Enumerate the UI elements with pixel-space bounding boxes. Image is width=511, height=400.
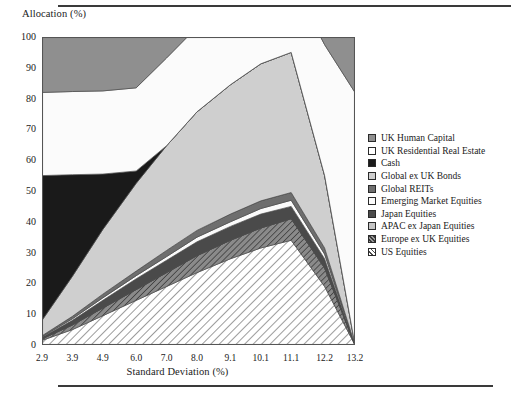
legend-swatch-icon [368, 185, 376, 193]
y-tick-label: 70 [10, 124, 36, 134]
legend-item[interactable]: Japan Equities [368, 208, 510, 221]
legend-swatch-icon [368, 235, 376, 243]
legend-label: APAC ex Japan Equities [381, 221, 474, 231]
y-tick-label: 80 [10, 94, 36, 104]
plot-area [42, 37, 355, 345]
legend-item[interactable]: US Equities [368, 245, 510, 258]
area-series-group [42, 37, 355, 345]
legend-item[interactable]: Global REITs [368, 182, 510, 195]
legend-label: Europe ex UK Equities [381, 234, 469, 244]
x-axis-title: Standard Deviation (%) [0, 366, 355, 377]
legend-label: UK Residential Real Estate [381, 146, 485, 156]
x-tick-label: 12.2 [308, 353, 342, 363]
legend-swatch-icon [368, 210, 376, 218]
y-tick-label: 30 [10, 248, 36, 258]
y-tick-label: 10 [10, 309, 36, 319]
y-tick-label: 60 [10, 155, 36, 165]
legend-swatch-icon [368, 248, 376, 256]
x-tick-label: 9.1 [213, 353, 247, 363]
bottom-divider-rule [58, 385, 493, 387]
legend-item[interactable]: Emerging Market Equities [368, 195, 510, 208]
legend-label: Japan Equities [381, 209, 436, 219]
x-tick-label: 11.1 [274, 353, 308, 363]
stacked-area-chart [42, 37, 355, 345]
legend-item[interactable]: Europe ex UK Equities [368, 233, 510, 246]
x-tick-label: 3.9 [55, 353, 89, 363]
legend-item[interactable]: UK Human Capital [368, 132, 510, 145]
legend-swatch-icon [368, 134, 376, 142]
legend-swatch-icon [368, 172, 376, 180]
y-tick-label: 100 [10, 32, 36, 42]
legend-item[interactable]: APAC ex Japan Equities [368, 220, 510, 233]
x-tick-label: 7.0 [150, 353, 184, 363]
legend-item[interactable]: Global ex UK Bonds [368, 170, 510, 183]
chart-legend: UK Human CapitalUK Residential Real Esta… [368, 132, 510, 258]
x-tick-label: 13.2 [338, 353, 372, 363]
y-tick-label: 90 [10, 63, 36, 73]
legend-swatch-icon [368, 222, 376, 230]
figure-container: Allocation (%) Standard Deviation (%) 10… [0, 0, 511, 400]
legend-label: Global ex UK Bonds [381, 171, 461, 181]
legend-label: Cash [381, 158, 400, 168]
legend-swatch-icon [368, 159, 376, 167]
y-axis-title: Allocation (%) [22, 8, 86, 19]
legend-item[interactable]: UK Residential Real Estate [368, 145, 510, 158]
y-tick-label: 20 [10, 278, 36, 288]
legend-label: Emerging Market Equities [381, 196, 482, 206]
legend-label: Global REITs [381, 184, 433, 194]
legend-label: UK Human Capital [381, 133, 455, 143]
x-tick-label: 4.9 [86, 353, 120, 363]
legend-swatch-icon [368, 197, 376, 205]
top-divider-rule [58, 5, 511, 7]
legend-swatch-icon [368, 147, 376, 155]
legend-label: US Equities [381, 247, 427, 257]
x-tick-label: 10.1 [244, 353, 278, 363]
x-tick-label: 2.9 [25, 353, 59, 363]
legend-item[interactable]: Cash [368, 157, 510, 170]
y-tick-label: 50 [10, 186, 36, 196]
y-tick-label: 40 [10, 217, 36, 227]
y-tick-label: 0 [10, 340, 36, 350]
x-tick-label: 8.0 [180, 353, 214, 363]
x-tick-label: 6.0 [119, 353, 153, 363]
